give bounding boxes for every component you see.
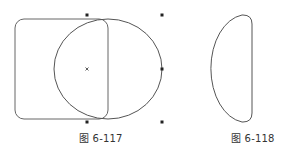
- handle-top-middle[interactable]: [86, 14, 89, 17]
- caption-6-118: 图 6-118: [231, 130, 275, 145]
- handle-middle-right[interactable]: [161, 68, 164, 71]
- diagram-canvas: [0, 0, 295, 151]
- figure-6-117: [15, 14, 164, 124]
- center-mark-icon[interactable]: [86, 68, 89, 71]
- handle-bottom-right[interactable]: [161, 121, 164, 124]
- rounded-rectangle[interactable]: [15, 19, 108, 119]
- figure-6-118: [211, 15, 252, 122]
- intersection-shape[interactable]: [211, 15, 252, 122]
- caption-6-117: 图 6-117: [79, 130, 123, 145]
- handle-bottom-middle[interactable]: [86, 121, 89, 124]
- handle-top-right[interactable]: [161, 14, 164, 17]
